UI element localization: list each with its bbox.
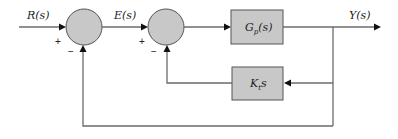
arrow-output-icon <box>374 24 381 31</box>
summing-junction-1 <box>66 9 102 45</box>
outer-feedback-wire <box>83 49 333 126</box>
sum2-plus-sign: + <box>139 36 145 47</box>
inner-feedback-wire <box>167 49 232 83</box>
plant-block-label: Gp(s) <box>245 21 273 36</box>
arrow-into-plant-icon <box>224 24 231 31</box>
sum1-minus-sign: − <box>68 46 74 57</box>
arrow-into-sum1-minus-icon <box>80 45 87 52</box>
summing-junction-2 <box>148 9 184 45</box>
arrow-into-sum2-icon <box>141 24 148 31</box>
arrow-into-sum1-icon <box>59 24 66 31</box>
output-signal-label: Y(s) <box>349 9 371 22</box>
arrow-into-feedback-block-icon <box>284 80 291 87</box>
feedback-block-label: Kts <box>249 77 267 92</box>
error-signal-label: E(s) <box>113 9 136 22</box>
block-diagram: R(s) + − E(s) + − Gp(s) Y(s) Kts <box>0 0 398 139</box>
sum1-plus-sign: + <box>55 36 61 47</box>
plant-block <box>231 10 283 44</box>
input-signal-label: R(s) <box>26 9 50 22</box>
arrow-into-sum2-minus-icon <box>164 45 171 52</box>
sum2-minus-sign: − <box>151 46 157 57</box>
